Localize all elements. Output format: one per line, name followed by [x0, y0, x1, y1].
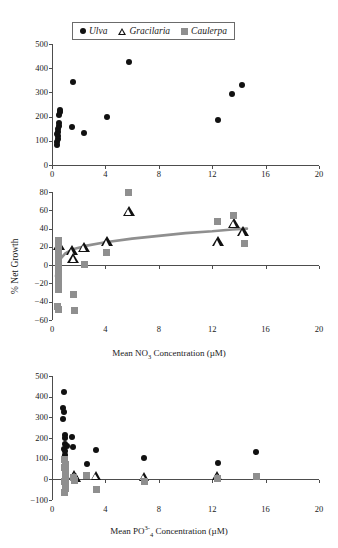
x-axis-tick: [212, 480, 213, 483]
data-point-caulerpa: [71, 477, 78, 484]
y-axis-tick-label: 500: [14, 40, 48, 48]
data-point-ulva: [215, 460, 221, 466]
triangle-inner: [214, 240, 220, 246]
filled-square-icon: [181, 28, 188, 35]
data-point-ulva: [61, 409, 67, 415]
y-axis-tick-label: 0: [14, 475, 48, 483]
figure-container: Ulva Gracilaria Caulerpa 010020030040050…: [0, 0, 338, 548]
data-point-caulerpa: [241, 240, 248, 247]
data-point-gracilaria: [123, 206, 135, 216]
data-point-ulva: [69, 124, 75, 130]
y-axis-tick-label: 200: [14, 434, 48, 442]
x-axis-tick: [105, 480, 106, 483]
x-axis-tick-label: 16: [254, 170, 278, 178]
data-point-caulerpa: [55, 273, 62, 280]
y-axis-tick: [49, 44, 52, 45]
legend-item-ulva: Ulva: [80, 26, 107, 36]
y-axis-tick-label: 0: [14, 161, 48, 169]
data-point-caulerpa: [125, 189, 132, 196]
y-axis-tick-label: 400: [14, 64, 48, 72]
legend-item-gracilaria: Gracilaria: [118, 26, 170, 36]
data-point-caulerpa: [83, 472, 90, 479]
x-axis-line: [52, 165, 319, 166]
data-point-ulva: [84, 461, 90, 467]
x-axis-tick-label: 16: [254, 505, 278, 513]
y-axis-tick-label: 500: [14, 372, 48, 380]
filled-circle-icon: [80, 28, 86, 34]
data-point-ulva: [126, 59, 132, 65]
x-axis-tick-label: 8: [147, 505, 171, 513]
y-axis-tick: [49, 376, 52, 377]
y-axis-tick-label: 100: [14, 136, 48, 144]
x-axis-tick-label: 4: [93, 505, 117, 513]
x-axis-tick-label: 0: [40, 505, 64, 513]
y-axis-tick-label: 300: [14, 88, 48, 96]
data-point-ulva: [104, 114, 110, 120]
y-axis-tick: [49, 68, 52, 69]
y-axis-line: [52, 44, 53, 165]
y-axis-label-middle: % Net Growth: [10, 239, 20, 294]
triangle-inner: [239, 230, 245, 236]
data-point-caulerpa: [55, 306, 62, 313]
scatter-panel-bottom: −1000100200300400500048121620: [0, 372, 338, 522]
data-point-gracilaria: [78, 242, 90, 252]
data-point-ulva: [61, 389, 67, 395]
x-axis-label-middle: Mean NO3 Concentration (µM): [0, 348, 338, 360]
y-axis-tick-label: 100: [14, 454, 48, 462]
data-point-gracilaria: [212, 236, 224, 246]
legend-label-gracilaria: Gracilaria: [129, 26, 170, 36]
data-point-gracilaria: [91, 471, 101, 480]
plot-area-middle: −60−40−20020406080048121620: [0, 186, 338, 346]
data-point-ulva: [141, 455, 147, 461]
legend-item-caulerpa: Caulerpa: [181, 26, 227, 36]
data-point-ulva: [70, 79, 76, 85]
y-axis-tick: [49, 117, 52, 118]
scatter-panel-top: 0100200300400500048121620: [0, 40, 338, 182]
data-point-caulerpa: [93, 486, 100, 493]
triangle-inner: [92, 474, 98, 479]
triangle-inner: [70, 256, 76, 262]
triangle-inner: [80, 245, 86, 251]
data-point-gracilaria: [101, 236, 113, 246]
x-axis-tick-label: 20: [307, 170, 331, 178]
y-axis-tick-label: 300: [14, 413, 48, 421]
x-axis-tick: [52, 480, 53, 483]
triangle-inner: [103, 240, 109, 246]
fit-curve: [0, 186, 338, 330]
y-axis-tick: [49, 438, 52, 439]
x-axis-tick: [266, 480, 267, 483]
plot-area-bottom: −1000100200300400500048121620: [0, 372, 338, 526]
data-point-caulerpa: [70, 291, 77, 298]
y-axis-tick: [49, 417, 52, 418]
data-point-ulva: [70, 444, 76, 450]
data-point-caulerpa: [214, 218, 221, 225]
data-point-ulva: [229, 91, 235, 97]
data-point-caulerpa: [103, 249, 110, 256]
x-axis-tick: [319, 480, 320, 483]
x-axis-tick-label: 8: [147, 170, 171, 178]
data-point-gracilaria: [67, 253, 79, 263]
data-point-caulerpa: [61, 489, 68, 496]
data-point-ulva: [81, 130, 87, 136]
open-triangle-icon: [118, 28, 126, 35]
legend-label-caulerpa: Caulerpa: [191, 26, 227, 36]
triangle-inner: [230, 221, 236, 227]
x-axis-tick-label: 12: [200, 170, 224, 178]
data-point-caulerpa: [141, 478, 148, 485]
data-point-caulerpa: [230, 212, 237, 219]
data-point-caulerpa: [253, 473, 260, 480]
data-point-ulva: [57, 107, 63, 113]
data-point-ulva: [60, 416, 66, 422]
x-axis-tick-label: 4: [93, 170, 117, 178]
y-axis-tick: [49, 397, 52, 398]
triangle-inner: [125, 209, 131, 215]
chart-legend: Ulva Gracilaria Caulerpa: [72, 22, 235, 40]
y-axis-tick-label: 400: [14, 392, 48, 400]
y-axis-tick-label: 200: [14, 112, 48, 120]
x-axis-tick-label: 12: [200, 505, 224, 513]
x-axis-tick: [159, 480, 160, 483]
x-axis-tick-label: 0: [40, 170, 64, 178]
plot-area-top: 0100200300400500048121620: [0, 40, 338, 191]
y-axis-tick: [49, 141, 52, 142]
scatter-panel-middle: −60−40−20020406080048121620 % Net Growth: [0, 186, 338, 346]
